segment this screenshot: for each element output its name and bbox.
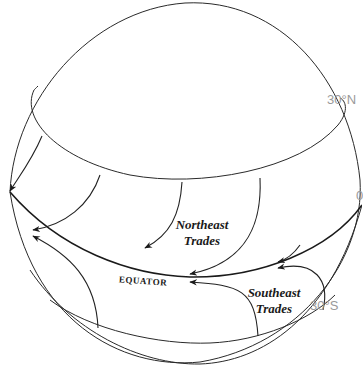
- northeast-trades-line1: Northeast: [172, 217, 232, 233]
- wind-arrow-ne-2: [33, 175, 100, 230]
- southeast-trades-label: Southeast Trades: [243, 285, 305, 317]
- southeast-trades-line1: Southeast: [243, 285, 305, 301]
- latitude-0-label: 0: [356, 188, 363, 203]
- wind-arrow-ne-1: [10, 136, 42, 191]
- wind-arrow-se-1: [33, 236, 98, 328]
- latitude-30s-label: 30°S: [310, 298, 338, 313]
- southeast-trades-line2: Trades: [243, 301, 305, 317]
- northeast-trades-label: Northeast Trades: [172, 217, 232, 249]
- latitude-30n-label: 30°N: [327, 92, 356, 107]
- northeast-trades-line2: Trades: [172, 233, 232, 249]
- latitude-30n-ellipse: [31, 90, 345, 179]
- latitude-30n-back-arc: [34, 86, 38, 90]
